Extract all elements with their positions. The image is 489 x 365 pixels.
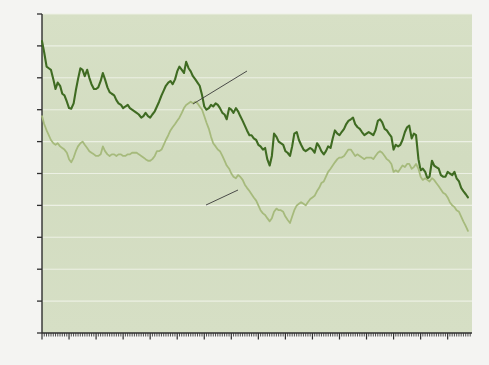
chart-canvas	[0, 0, 489, 365]
interest-rate-chart	[0, 0, 489, 365]
